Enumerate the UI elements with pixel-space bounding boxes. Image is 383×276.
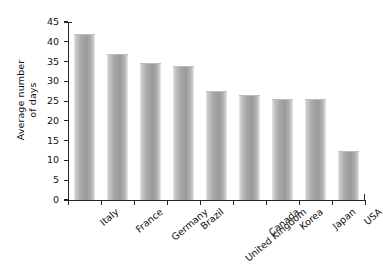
y-axis-label: Average number of days: [15, 40, 39, 160]
y-tick-label-25: 25: [37, 96, 59, 106]
x-tick-0: [68, 200, 69, 205]
bar-germany: [140, 63, 161, 200]
x-tick-1: [101, 200, 102, 205]
y-axis-line: [68, 22, 69, 200]
x-tick-3: [167, 200, 168, 205]
y-tick-label-15: 15: [37, 136, 59, 146]
y-tick-20: [64, 120, 69, 121]
y-tick-label-40: 40: [37, 37, 59, 47]
y-tick-45: [64, 21, 69, 22]
y-tick-35: [64, 61, 69, 62]
y-tick-label-5: 5: [37, 175, 59, 185]
bar-japan: [305, 99, 326, 200]
x-axis-label-france: France: [133, 206, 164, 235]
x-axis-label-usa: USA: [361, 206, 383, 227]
x-axis-label-italy: Italy: [97, 206, 120, 228]
x-tick-6: [266, 200, 267, 205]
plot-area: 051015202530354045: [68, 22, 365, 200]
bar-united-kingdom: [206, 91, 227, 200]
bar-italy: [74, 34, 95, 200]
bar-brazil: [173, 66, 194, 200]
y-tick-label-0: 0: [37, 195, 59, 205]
x-tick-9: [365, 200, 366, 205]
y-tick-40: [64, 41, 69, 42]
y-tick-label-10: 10: [37, 155, 59, 165]
x-axis-line: [68, 200, 365, 201]
y-tick-15: [64, 140, 69, 141]
bar-france: [107, 54, 128, 200]
x-tick-2: [134, 200, 135, 205]
x-tick-7: [299, 200, 300, 205]
y-tick-label-30: 30: [37, 76, 59, 86]
y-tick-10: [64, 160, 69, 161]
y-tick-label-20: 20: [37, 116, 59, 126]
y-tick-label-35: 35: [37, 57, 59, 67]
x-tick-4: [200, 200, 201, 205]
y-tick-label-45: 45: [37, 17, 59, 27]
bar-usa: [338, 151, 359, 200]
x-tick-5: [233, 200, 234, 205]
bar-canada: [239, 95, 260, 200]
x-axis-label-japan: Japan: [330, 206, 357, 231]
y-axis-top-cap: [68, 22, 72, 23]
y-tick-30: [64, 81, 69, 82]
x-tick-8: [332, 200, 333, 205]
y-tick-25: [64, 101, 69, 102]
bar-korea: [272, 99, 293, 200]
y-tick-5: [64, 180, 69, 181]
